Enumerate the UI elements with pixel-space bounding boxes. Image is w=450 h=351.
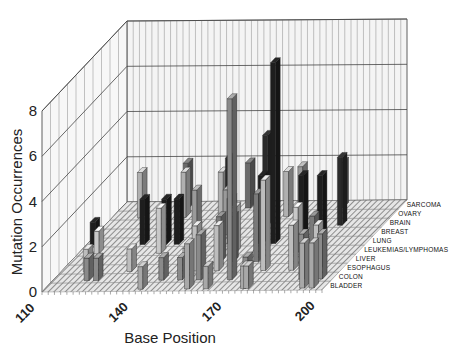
x-tick-label: 170 (199, 299, 225, 325)
bar (284, 167, 294, 217)
bar (84, 253, 94, 281)
bar (185, 239, 195, 289)
y-tick-label: 8 (29, 102, 37, 119)
category-label: SARCOMA (407, 201, 442, 208)
bar (159, 253, 169, 281)
bar (337, 152, 347, 225)
bar (94, 253, 104, 281)
bar (244, 261, 254, 289)
category-label: LUNG (373, 237, 392, 244)
category-label: BLADDER (330, 282, 362, 289)
y-tick-label: 2 (29, 238, 37, 255)
category-label: BREAST (381, 228, 408, 235)
bar (156, 203, 166, 253)
category-label: ESOPHAGUS (347, 264, 390, 271)
bar (140, 194, 150, 244)
y-tick-label: 4 (29, 193, 37, 210)
bar (261, 175, 271, 270)
bar (214, 221, 224, 271)
bar (203, 261, 213, 289)
category-label: OVARY (398, 210, 422, 217)
bar (127, 244, 137, 272)
category-label: COLON (339, 273, 363, 280)
y-tick-label: 6 (29, 147, 37, 164)
bar (138, 262, 148, 290)
bar (271, 58, 281, 244)
mutation-3d-bar-chart: 02468 110140170200 BLADDERCOLONESOPHAGUS… (0, 0, 450, 351)
category-label: BRAIN (390, 219, 411, 226)
bar (289, 220, 299, 270)
bar (309, 238, 319, 288)
x-tick-label: 200 (292, 298, 318, 324)
y-axis-title: Mutation Occurrences (8, 129, 25, 276)
y-tick-label: 0 (29, 283, 37, 300)
category-label: LIVER (356, 255, 376, 262)
bar (227, 94, 237, 280)
y-axis-ticks: 02468 (29, 102, 37, 300)
bar (94, 226, 104, 254)
bar (318, 229, 328, 279)
category-label: LEUKEMIAS/LYMPHOMAS (364, 246, 448, 253)
bar (300, 238, 310, 288)
x-tick-label: 140 (105, 299, 131, 325)
x-axis-ticks: 110140170200 (12, 298, 318, 326)
bar (174, 194, 184, 244)
x-tick-label: 110 (12, 300, 37, 325)
x-axis-title: Base Position (124, 329, 216, 346)
